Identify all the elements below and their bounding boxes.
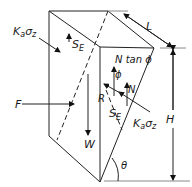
label-f: F: [15, 98, 22, 111]
diagram-canvas: Kaσz SE N tan ϕ ϕ N R SE Kaσz F W L H θ: [0, 0, 192, 187]
label-ka-left: Kaσz: [13, 25, 37, 39]
wedge-force-diagram: Kaσz SE N tan ϕ ϕ N R SE Kaσz F W L H θ: [0, 0, 192, 187]
label-w: W: [84, 138, 96, 151]
label-ntan: N tan ϕ: [115, 54, 152, 65]
label-phi: ϕ: [115, 69, 122, 80]
label-theta: θ: [121, 160, 127, 171]
label-ka-right: Kaσz: [133, 117, 157, 131]
label-se-left: SE: [72, 38, 85, 53]
label-n: N: [128, 84, 136, 95]
theta-arc: [112, 158, 118, 181]
label-h: H: [166, 113, 174, 126]
pressure-right-arrow: [119, 92, 150, 112]
label-r: R: [98, 93, 105, 104]
label-l: L: [146, 20, 152, 33]
label-se-right: SE: [109, 107, 122, 122]
dimension-lines: [104, 11, 190, 181]
